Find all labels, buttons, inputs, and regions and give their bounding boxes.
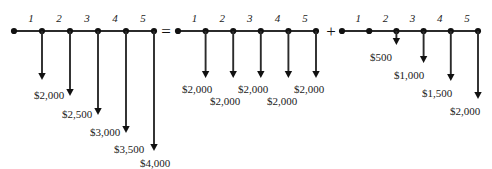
cash-flow-arrow-head-p5 [474, 92, 481, 99]
amount-label-p1: $2,000 [34, 89, 65, 101]
cash-flow-arrow-head-p4 [122, 126, 129, 133]
period-label-5: 5 [302, 12, 308, 24]
amount-label-p4: $3,500 [114, 143, 145, 155]
amount-label-p3: $1,000 [394, 69, 425, 81]
cash-flow-arrow-head-p3 [94, 108, 101, 115]
period-label-3: 3 [246, 12, 253, 24]
amount-label-p1: $2,000 [182, 83, 213, 95]
period-label-3: 3 [83, 12, 90, 24]
cash-flow-arrow-head-p2 [230, 71, 237, 78]
timeline-node-0 [175, 28, 181, 34]
timeline-arithmetic-gradient: 12345$500$1,000$1,500$2,000 [339, 12, 482, 117]
period-label-4: 4 [112, 12, 118, 24]
timeline-node-0 [11, 28, 17, 34]
period-label-4: 4 [275, 12, 281, 24]
period-label-3: 3 [409, 12, 416, 24]
period-label-5: 5 [140, 12, 146, 24]
amount-label-p3: $2,000 [238, 83, 269, 95]
cash-flow-arrow-head-p3 [420, 56, 427, 63]
cash-flow-arrow-head-p5 [312, 71, 319, 78]
amount-label-p5: $2,000 [294, 83, 325, 95]
cash-flow-arrow-head-p2 [393, 38, 400, 45]
cash-flow-arrow-head-p3 [257, 71, 264, 78]
amount-label-p2: $2,000 [210, 95, 241, 107]
amount-label-p5: $2,000 [450, 105, 481, 117]
equals-operator: = [161, 22, 171, 41]
period-label-1: 1 [355, 12, 361, 24]
cash-flow-arrow-head-p2 [66, 89, 73, 96]
period-label-1: 1 [192, 12, 198, 24]
diagram-canvas: 12345$2,000$2,500$3,000$3,500$4,00012345… [0, 0, 492, 169]
period-label-2: 2 [219, 12, 225, 24]
period-label-2: 2 [56, 12, 62, 24]
amount-label-p2: $2,500 [62, 108, 93, 120]
timeline-combined-series: 12345$2,000$2,500$3,000$3,500$4,000 [11, 12, 171, 169]
amount-label-p4: $1,500 [422, 87, 453, 99]
timeline-node-0 [339, 28, 345, 34]
plus-operator: + [326, 22, 336, 41]
amount-label-p5: $4,000 [140, 157, 171, 169]
cash-flow-arrow-head-p5 [150, 144, 157, 151]
period-label-5: 5 [464, 12, 470, 24]
timeline-node-1 [366, 28, 372, 34]
render-root: 12345$2,000$2,500$3,000$3,500$4,00012345… [11, 12, 482, 169]
cash-flow-diagram: 12345$2,000$2,500$3,000$3,500$4,00012345… [0, 0, 492, 169]
amount-label-p3: $3,000 [90, 126, 121, 138]
amount-label-p4: $2,000 [267, 95, 298, 107]
timeline-uniform-annuity: 12345$2,000$2,000$2,000$2,000$2,000 [175, 12, 325, 107]
amount-label-p2: $500 [370, 51, 393, 63]
cash-flow-arrow-head-p4 [285, 71, 292, 78]
period-label-2: 2 [383, 12, 389, 24]
cash-flow-arrow-head-p1 [38, 73, 45, 80]
cash-flow-arrow-head-p4 [447, 74, 454, 81]
period-label-4: 4 [437, 12, 443, 24]
cash-flow-arrow-head-p1 [202, 71, 209, 78]
period-label-1: 1 [28, 12, 34, 24]
